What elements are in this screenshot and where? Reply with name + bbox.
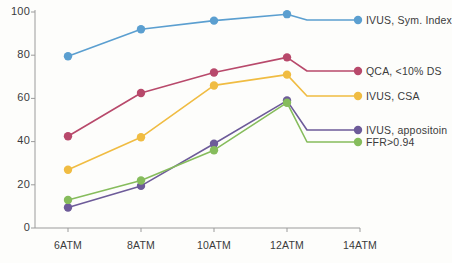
data-point: [210, 68, 218, 76]
legend-markers: [354, 16, 362, 146]
axes: [31, 10, 360, 232]
legend-marker-4: [354, 138, 362, 146]
data-point: [64, 52, 72, 60]
data-point: [283, 53, 291, 61]
data-point: [64, 203, 72, 211]
data-point: [210, 16, 218, 24]
series-lines: [64, 10, 358, 212]
legend-marker-2: [354, 92, 362, 100]
data-point: [137, 89, 145, 97]
legend-marker-1: [354, 67, 362, 75]
legend-marker-3: [354, 126, 362, 134]
data-point: [64, 196, 72, 204]
data-point: [137, 133, 145, 141]
data-point: [64, 132, 72, 140]
data-point: [210, 146, 218, 154]
data-point: [283, 99, 291, 107]
data-point: [137, 25, 145, 33]
data-point: [64, 165, 72, 173]
legend-marker-0: [354, 16, 362, 24]
data-point: [283, 70, 291, 78]
data-point: [283, 10, 291, 18]
data-point: [210, 81, 218, 89]
data-point: [137, 176, 145, 184]
